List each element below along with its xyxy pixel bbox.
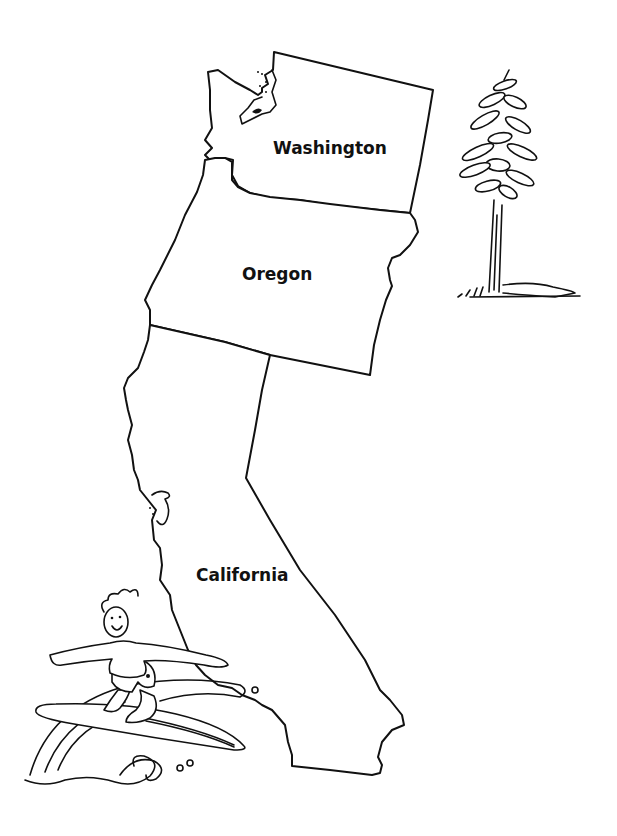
redwood-tree-illustration xyxy=(458,70,580,297)
label-washington: Washington xyxy=(273,138,387,158)
label-oregon: Oregon xyxy=(242,264,312,284)
pacific-states-map xyxy=(0,0,617,836)
state-california xyxy=(124,325,404,775)
label-california: California xyxy=(196,565,288,585)
